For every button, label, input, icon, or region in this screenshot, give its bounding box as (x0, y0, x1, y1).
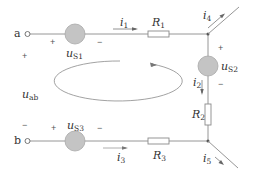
us3-label: uS3 (67, 120, 84, 133)
us1-minus-sign: − (97, 38, 102, 47)
loop-arrow (54, 61, 182, 101)
us1-plus-sign: + (50, 38, 55, 47)
r3-label: R3 (153, 150, 166, 163)
r2-label: R2 (192, 109, 205, 122)
i1-label: i1 (120, 17, 128, 30)
terminal-a (25, 32, 30, 37)
us3-minus-sign: − (97, 124, 102, 133)
arrow-i5 (215, 157, 224, 165)
uab-label: uab (22, 89, 38, 102)
arrow-i3 (103, 146, 128, 150)
uab-minus-sign: − (22, 121, 27, 130)
us2-plus-sign: + (218, 44, 223, 53)
us2-minus-sign: − (218, 80, 223, 89)
uab-plus-sign: + (22, 52, 27, 61)
resistor-r2 (205, 104, 211, 125)
source-us1 (65, 24, 85, 44)
i5-label: i5 (203, 153, 211, 166)
terminal-b (25, 139, 30, 144)
branch-i4 (208, 7, 239, 34)
terminal-b-label: b (14, 135, 21, 146)
us3-plus-sign: + (51, 124, 56, 133)
us2-label: uS2 (221, 61, 238, 74)
source-us2 (198, 56, 218, 76)
us1-label: uS1 (66, 48, 83, 61)
i2-label: i2 (193, 77, 201, 90)
resistor-r3 (148, 138, 169, 144)
i4-label: i4 (203, 10, 211, 23)
i3-label: i3 (117, 152, 125, 165)
source-us3 (65, 131, 85, 151)
resistor-r1 (148, 31, 169, 37)
circuit-diagram: a b + uab − + − uS1 + − uS2 + − uS3 R1 R… (0, 0, 253, 178)
r1-label: R1 (152, 17, 165, 30)
terminal-a-label: a (14, 28, 21, 39)
